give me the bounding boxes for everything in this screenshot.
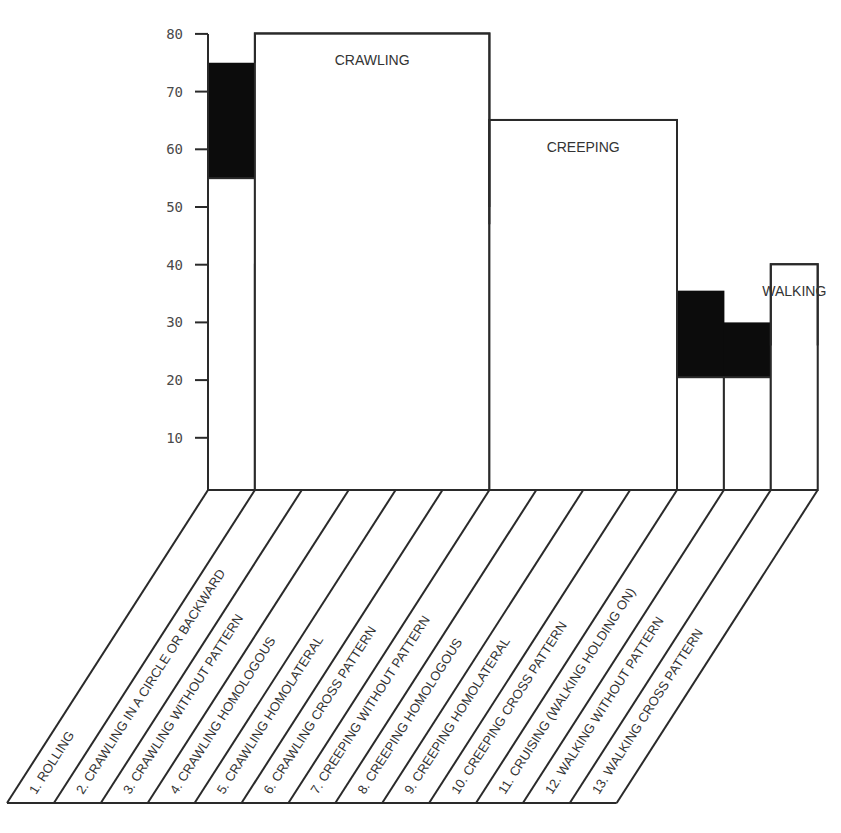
bar-12 [724,322,771,490]
bar-lower-segment [724,377,771,490]
group-label: CREEPING [547,139,620,155]
y-tick-label: 40 [166,257,183,273]
bar-11 [677,291,724,490]
group-box-crawling [255,33,490,490]
group-label: CRAWLING [335,52,410,68]
bar-1 [208,63,255,490]
bar-lower-segment [677,377,724,490]
y-tick-label: 70 [166,84,183,100]
category-label-panel: 1. ROLLING2. CRAWLING IN A CIRCLE OR BAC… [7,490,818,803]
group-box-creeping [489,120,677,490]
y-tick-label: 20 [166,372,183,388]
y-tick-label: 30 [166,314,183,330]
y-tick-label: 80 [166,26,183,42]
bar-lower-segment [208,178,255,490]
group-label: WALKING [762,283,826,299]
bar-chart: CRAWLINGCREEPINGWALKING10203040506070801… [0,0,841,833]
y-tick-label: 60 [166,141,183,157]
y-tick-label: 10 [166,430,183,446]
y-tick-label: 50 [166,199,183,215]
